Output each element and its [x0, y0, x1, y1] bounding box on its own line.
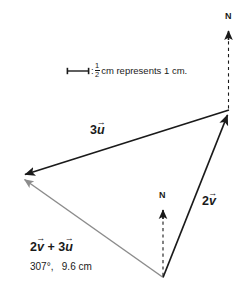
scale-fraction-denominator: 2: [95, 71, 99, 79]
vector-diagram-figure: N N : 1 2 cm represents 1 cm. 3→u 2→v: [0, 0, 242, 303]
resultant-plus: +: [47, 240, 54, 254]
scale-fraction-numerator: 1: [95, 62, 99, 70]
scale-legend: : 1 2 cm represents 1 cm.: [66, 62, 187, 79]
vector-3u-line: [25, 110, 229, 175]
resultant-u-overarrow: →: [65, 234, 74, 243]
vector-2v-symbol: →v: [209, 195, 216, 208]
resultant-measurements: 307°, 9.6 cm: [30, 261, 92, 272]
vector-2v-line: [163, 115, 228, 278]
resultant-annotation: 2→v + 3→u 307°, 9.6 cm: [30, 240, 92, 272]
vector-3u-overarrow: →: [97, 118, 106, 127]
resultant-bearing: 307°,: [30, 261, 53, 272]
vector-2v-label: 2→v: [202, 195, 216, 208]
north-label-bottom: N: [159, 191, 166, 200]
scale-fraction: 1 2: [95, 62, 100, 79]
resultant-v-symbol: →v: [37, 240, 44, 254]
vector-3u-symbol: →u: [97, 124, 105, 137]
scale-text-before: cm represents: [101, 65, 161, 76]
vector-3u-label: 3→u: [90, 124, 105, 137]
scale-text-after: 1 cm.: [164, 65, 187, 76]
scale-bar-icon: [66, 66, 90, 76]
resultant-v-overarrow: →: [36, 234, 45, 243]
vector-2v-overarrow: →: [208, 189, 217, 198]
resultant-u-symbol: →u: [65, 240, 73, 254]
resultant-magnitude: 9.6 cm: [62, 261, 92, 272]
scale-legend-text: : 1 2 cm represents 1 cm.: [91, 62, 187, 79]
scale-separator: :: [91, 65, 94, 76]
north-label-top: N: [225, 12, 232, 21]
resultant-expression: 2→v + 3→u: [30, 240, 92, 254]
